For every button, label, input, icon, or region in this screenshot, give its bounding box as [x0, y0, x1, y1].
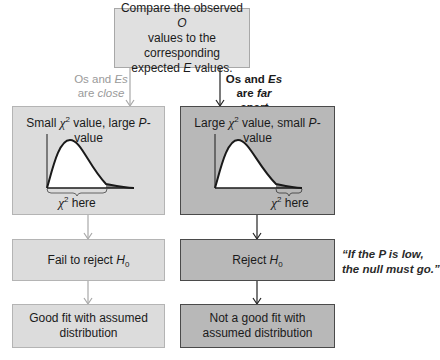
- h-symbol: H: [116, 253, 125, 267]
- small-chi-square-box: Small χ2 value, large P-value χ2 here: [12, 106, 165, 215]
- fail-to-reject-box: Fail to reject H0: [12, 239, 165, 281]
- quote-line-2: the null must go.”: [342, 262, 440, 277]
- os-text: Os: [226, 73, 241, 85]
- not-good-fit-line-1: Not a good fit with: [202, 311, 312, 326]
- quote-line-1: “If the P is low,: [342, 247, 440, 262]
- large-chi-square-box: Large χ2 value, small P-value χ2 here: [180, 106, 335, 215]
- are-text: are: [236, 87, 256, 99]
- compare-text-2: values to the corresponding: [115, 31, 249, 61]
- not-good-fit-line-2: assumed distribution: [202, 326, 312, 341]
- es-text: Es: [268, 73, 282, 85]
- here-text: here: [68, 196, 95, 210]
- h-symbol: H: [270, 253, 279, 267]
- chi-here-annotation: χ2 here: [269, 196, 311, 210]
- es-text: Es: [114, 73, 127, 85]
- brace-icon: [47, 189, 107, 196]
- subscript: 0: [278, 260, 282, 269]
- branch-close-label: Os and Es are close: [72, 72, 130, 100]
- subscript: 0: [125, 260, 129, 269]
- compare-text-1: Compare the observed: [121, 1, 243, 15]
- here-text: here: [281, 196, 308, 210]
- chi-square-curve-large: [181, 107, 336, 216]
- fail-text: Fail to reject: [48, 253, 117, 267]
- are-text: are: [78, 87, 98, 99]
- good-fit-line-2: distribution: [29, 326, 148, 341]
- not-good-fit-box: Not a good fit with assumed distribution: [180, 304, 335, 348]
- good-fit-line-1: Good fit with assumed: [29, 311, 148, 326]
- var-o: O: [177, 16, 186, 30]
- and-text: and: [241, 73, 268, 85]
- close-text: close: [97, 87, 124, 99]
- compare-box: Compare the observed O values to the cor…: [114, 8, 250, 68]
- chi-here-annotation: χ2 here: [57, 196, 97, 210]
- and-text: and: [89, 73, 115, 85]
- mnemonic-quote: “If the P is low, the null must go.”: [342, 247, 440, 277]
- compare-text-3: expected: [131, 61, 183, 75]
- reject-text: Reject: [232, 253, 269, 267]
- reject-box: Reject H0: [180, 239, 335, 281]
- good-fit-box: Good fit with assumed distribution: [12, 304, 165, 348]
- os-text: Os: [74, 73, 89, 85]
